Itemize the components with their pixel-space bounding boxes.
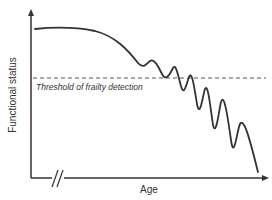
x-axis-label: Age: [140, 184, 158, 195]
functional-status-curve: [35, 28, 258, 172]
axis-break-icon: [52, 170, 64, 187]
y-axis-arrow-icon: [28, 9, 34, 16]
y-axis-label: Functional status: [7, 57, 18, 133]
x-axis-arrow-icon: [262, 175, 269, 181]
x-axis: [31, 175, 269, 181]
threshold-label: Threshold of frailty detection: [36, 82, 143, 92]
y-axis: [28, 9, 34, 178]
frailty-diagram: [0, 0, 272, 200]
